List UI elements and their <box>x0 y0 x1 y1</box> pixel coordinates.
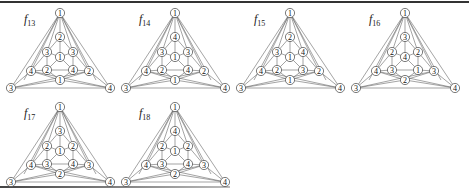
graph-node-outer_left: 4 <box>141 160 150 169</box>
svg-text:3: 3 <box>186 48 190 57</box>
graph-panel-f13: f13 <box>0 0 118 94</box>
graph-node-center: 1 <box>285 52 294 61</box>
graph-node-outer_right: 2 <box>84 66 93 75</box>
svg-text:4: 4 <box>403 53 407 62</box>
graph-node-outer_left: 4 <box>26 66 35 75</box>
graph-diagram: 123144232134 <box>230 0 348 94</box>
graph-node-outer_left: 4 <box>26 160 35 169</box>
graph-node-top: 1 <box>170 8 179 17</box>
graph-node-outer_left: 4 <box>256 66 265 75</box>
graph-node-corner_left: 3 <box>236 83 245 92</box>
graph-node-mid_right: 2 <box>183 141 192 150</box>
svg-text:4: 4 <box>71 66 75 75</box>
svg-text:3: 3 <box>124 178 128 187</box>
graph-node-outer_right: 2 <box>199 66 208 75</box>
svg-text:3: 3 <box>432 67 436 76</box>
graph-node-corner_right: 4 <box>220 177 229 186</box>
graph-node-center: 1 <box>170 52 179 61</box>
graph-node-low_left: 2 <box>157 65 166 74</box>
svg-text:3: 3 <box>58 127 62 136</box>
svg-text:2: 2 <box>173 170 177 179</box>
svg-text:4: 4 <box>338 84 342 93</box>
svg-text:4: 4 <box>108 84 112 93</box>
svg-text:4: 4 <box>186 160 190 169</box>
svg-text:3: 3 <box>160 160 164 169</box>
graph-node-corner_right: 4 <box>220 83 229 92</box>
svg-text:2: 2 <box>403 76 407 85</box>
graph-node-corner_right: 4 <box>335 83 344 92</box>
graph-node-mid_right: 2 <box>68 141 77 150</box>
svg-text:3: 3 <box>9 84 13 93</box>
graph-node-center: 4 <box>400 52 409 61</box>
svg-text:1: 1 <box>173 9 177 18</box>
graph-panel-f17: f17 <box>0 94 118 188</box>
svg-text:1: 1 <box>173 76 177 85</box>
graph-node-low_right: 3 <box>298 65 307 74</box>
svg-text:3: 3 <box>45 48 49 57</box>
svg-text:1: 1 <box>173 53 177 62</box>
svg-text:2: 2 <box>390 48 394 57</box>
graph-nodes: 132124343234 <box>6 102 114 186</box>
svg-text:4: 4 <box>223 178 227 187</box>
graph-node-mid_right: 4 <box>298 47 307 56</box>
svg-text:1: 1 <box>58 76 62 85</box>
svg-text:4: 4 <box>29 67 33 76</box>
graph-node-bottom: 2 <box>170 169 179 178</box>
svg-text:3: 3 <box>9 178 13 187</box>
graph-node-mid_right: 2 <box>413 47 422 56</box>
svg-text:3: 3 <box>124 84 128 93</box>
graph-node-corner_left: 3 <box>121 83 130 92</box>
graph-node-bottom: 2 <box>400 75 409 84</box>
graph-node-corner_left: 3 <box>6 83 15 92</box>
graph-node-corner_right: 4 <box>105 83 114 92</box>
svg-text:3: 3 <box>45 160 49 169</box>
graph-node-inner_top: 2 <box>55 32 64 41</box>
graph-node-center: 1 <box>55 52 64 61</box>
graph-node-inner_top: 4 <box>170 32 179 41</box>
svg-text:4: 4 <box>144 161 148 170</box>
svg-text:2: 2 <box>160 66 164 75</box>
svg-text:3: 3 <box>275 48 279 57</box>
graph-node-outer_left: 4 <box>141 66 150 75</box>
svg-text:2: 2 <box>58 170 62 179</box>
graph-diagram: 132124343234 <box>0 94 118 188</box>
graph-node-mid_left: 2 <box>42 141 51 150</box>
svg-text:4: 4 <box>71 160 75 169</box>
svg-text:4: 4 <box>29 161 33 170</box>
graph-node-inner_top: 4 <box>170 126 179 135</box>
graph-node-top: 1 <box>400 8 409 17</box>
graph-node-bottom: 1 <box>285 75 294 84</box>
graph-node-mid_left: 3 <box>157 47 166 56</box>
graph-diagram: 142124343234 <box>115 94 233 188</box>
graph-node-bottom: 2 <box>55 169 64 178</box>
svg-text:1: 1 <box>288 9 292 18</box>
graph-node-low_left: 2 <box>272 65 281 74</box>
svg-text:1: 1 <box>403 9 407 18</box>
svg-text:1: 1 <box>173 147 177 156</box>
graph-node-mid_left: 3 <box>42 47 51 56</box>
graph-node-corner_left: 3 <box>121 177 130 186</box>
svg-text:2: 2 <box>45 66 49 75</box>
svg-text:4: 4 <box>259 67 263 76</box>
svg-text:1: 1 <box>58 103 62 112</box>
graph-node-low_right: 4 <box>68 159 77 168</box>
graph-node-top: 1 <box>55 102 64 111</box>
graph-node-top: 1 <box>55 8 64 17</box>
graph-node-corner_right: 4 <box>450 83 459 92</box>
svg-text:4: 4 <box>173 127 177 136</box>
graph-nodes: 132424313234 <box>351 8 459 92</box>
graph-node-low_left: 2 <box>42 65 51 74</box>
graph-node-corner_right: 4 <box>105 177 114 186</box>
svg-text:1: 1 <box>173 103 177 112</box>
svg-text:3: 3 <box>239 84 243 93</box>
graph-node-inner_top: 3 <box>55 126 64 135</box>
svg-text:3: 3 <box>160 48 164 57</box>
graph-node-mid_left: 3 <box>272 47 281 56</box>
graph-node-low_left: 3 <box>42 159 51 168</box>
graph-node-mid_right: 3 <box>183 47 192 56</box>
svg-text:3: 3 <box>71 48 75 57</box>
graph-nodes: 142124343234 <box>121 102 229 186</box>
svg-text:4: 4 <box>144 67 148 76</box>
graph-node-outer_left: 4 <box>371 66 380 75</box>
graph-node-mid_right: 3 <box>68 47 77 56</box>
